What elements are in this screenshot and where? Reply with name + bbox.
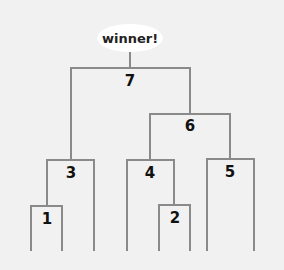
bracket-svg: winner! 7 6 3 1 4 2 5 bbox=[0, 0, 284, 270]
node-label-6: 6 bbox=[185, 117, 195, 135]
bracket-diagram: winner! 7 6 3 1 4 2 5 bbox=[0, 0, 284, 270]
node-label-4: 4 bbox=[145, 164, 155, 182]
node-label-7: 7 bbox=[125, 72, 135, 90]
node-label-3: 3 bbox=[66, 164, 76, 182]
node-label-5: 5 bbox=[225, 163, 235, 181]
node-label-2: 2 bbox=[170, 209, 180, 227]
winner-label: winner! bbox=[102, 31, 158, 46]
node-label-1: 1 bbox=[42, 210, 52, 228]
